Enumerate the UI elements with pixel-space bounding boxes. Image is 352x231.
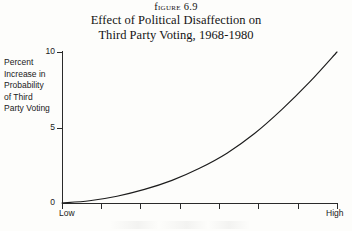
figure-root: Figure 6.9 Effect of Political Disaffect… xyxy=(0,0,352,231)
y-tick-label-10: 10 xyxy=(33,47,55,56)
figure-number: Figure 6.9 xyxy=(0,1,352,13)
x-tick-mark-2 xyxy=(140,204,141,209)
y-axis-caption-line-4: of Third xyxy=(4,92,58,104)
y-axis-line xyxy=(62,51,63,204)
x-axis-label-low: Low xyxy=(59,209,75,218)
x-axis-line xyxy=(62,203,338,204)
x-tick-mark-6 xyxy=(298,204,299,209)
y-tick-mark-5 xyxy=(57,128,62,129)
y-axis-caption-line-1: Percent xyxy=(4,57,58,69)
x-axis-label-high: High xyxy=(326,209,343,218)
y-axis-caption-line-2: Increase in xyxy=(4,69,58,81)
y-axis-caption-line-3: Probability xyxy=(4,80,58,92)
x-tick-mark-4 xyxy=(219,204,220,209)
figure-title-block: Figure 6.9 Effect of Political Disaffect… xyxy=(0,1,352,42)
figure-title-line-1: Effect of Political Disaffection on xyxy=(0,13,352,28)
y-tick-label-5: 5 xyxy=(33,123,55,132)
y-tick-mark-10 xyxy=(57,52,62,53)
scan-bleed-artifact xyxy=(110,221,250,229)
x-tick-mark-5 xyxy=(258,204,259,209)
y-tick-label-0: 0 xyxy=(33,198,55,207)
y-axis-caption: Percent Increase in Probability of Third… xyxy=(4,57,58,115)
figure-title-line-2: Third Party Voting, 1968-1980 xyxy=(0,28,352,43)
x-tick-mark-1 xyxy=(101,204,102,209)
y-axis-caption-line-5: Party Voting xyxy=(4,103,58,115)
data-curve-path xyxy=(62,52,337,203)
x-tick-mark-3 xyxy=(180,204,181,209)
